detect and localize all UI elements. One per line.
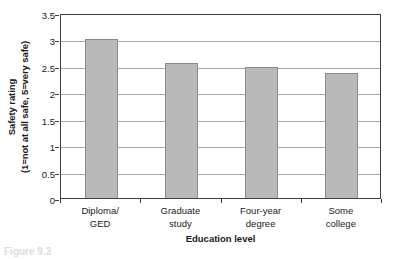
y-axis-tick-mark [55,174,59,175]
x-axis-tick-label-line: degree [221,217,301,230]
y-axis-tick-mark [55,200,59,201]
x-axis-tick-label-line: college [301,217,381,230]
y-axis-tick-mark [55,15,59,16]
bar [245,67,278,198]
y-axis-tick-mark [55,121,59,122]
x-axis-tick-mark [140,199,141,203]
x-axis-tick-label-line: Diploma/ [60,204,140,217]
x-axis-tick-label-line: GED [60,217,140,230]
bar [325,73,358,198]
x-axis-tick-label-line: Some [301,204,381,217]
x-axis-tick-mark [381,199,382,203]
x-axis-tick-label-line: study [140,217,220,230]
bar-chart-figure: Safety rating (1=not at all safe, 5=very… [0,0,394,260]
y-axis-title-line1: Safety rating [6,41,19,173]
y-axis-tick-label: 0.5 [42,168,55,179]
y-axis-tick-mark [55,41,59,42]
x-axis-tick-label-line: Four-year [221,204,301,217]
y-axis-tick-mark [55,68,59,69]
y-axis-title: Safety rating (1=not at all safe, 5=very… [4,14,32,200]
x-axis-tick-label: Somecollege [301,204,381,230]
y-axis-tick-label: 1.5 [42,115,55,126]
y-axis-title-line2: (1=not at all safe, 5=very safe) [18,41,31,173]
bar [85,39,118,198]
y-axis-tick-label: 2.5 [42,62,55,73]
x-axis-tick-mark [221,199,222,203]
y-axis-tick-label: 3.5 [42,10,55,21]
x-axis-title: Education level [60,233,381,244]
plot-area [60,14,381,199]
y-axis-tick-mark [55,94,59,95]
y-axis-tick-mark [55,147,59,148]
x-axis-tick-labels: Diploma/GEDGraduatestudyFour-yeardegreeS… [60,204,381,234]
x-axis-tick-mark [301,199,302,203]
x-axis-tick-label: Graduatestudy [140,204,220,230]
x-axis-tick-label: Diploma/GED [60,204,140,230]
x-axis-tick-label: Four-yeardegree [221,204,301,230]
x-axis-tick-label-line: Graduate [140,204,220,217]
bar [165,63,198,198]
figure-caption: Figure 9.3 [4,246,51,260]
x-axis-tick-mark [60,199,61,203]
